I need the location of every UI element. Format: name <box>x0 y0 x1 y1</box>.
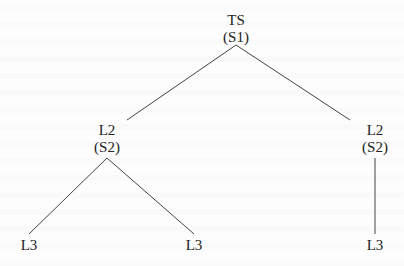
node-sublabel: (S2) <box>94 139 120 156</box>
node-l3-b: L3 <box>186 237 203 254</box>
node-l2-left: L2 (S2) <box>94 122 120 156</box>
node-root: TS (S1) <box>223 12 249 46</box>
node-label: L2 <box>94 122 120 139</box>
edge-root-l2-left <box>127 45 236 120</box>
edge-l2left-l3a <box>29 158 107 234</box>
node-label: L3 <box>367 237 384 254</box>
node-label: L3 <box>186 237 203 254</box>
edge-root-l2-right <box>236 45 350 120</box>
node-l2-right: L2 (S2) <box>362 122 388 156</box>
node-label: L2 <box>362 122 388 139</box>
node-l3-a: L3 <box>21 237 38 254</box>
edge-l2left-l3b <box>107 158 194 234</box>
node-l3-c: L3 <box>367 237 384 254</box>
tree-edges <box>0 0 404 266</box>
node-label: TS <box>223 12 249 29</box>
node-label: L3 <box>21 237 38 254</box>
node-sublabel: (S2) <box>362 139 388 156</box>
node-sublabel: (S1) <box>223 29 249 46</box>
